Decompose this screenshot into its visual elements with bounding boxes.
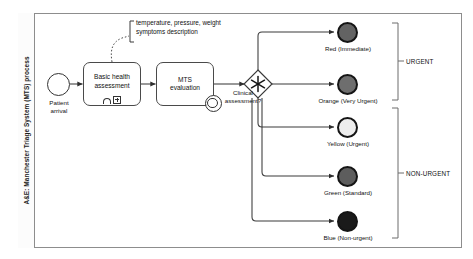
end-event-green-label: Green (Standard) — [303, 189, 393, 197]
end-event-blue-label: Blue (Non-urgent) — [302, 234, 394, 242]
task-label-line1: Basic health — [94, 73, 130, 82]
gateway-label-line2: assessment? — [213, 97, 273, 105]
end-event-orange[interactable] — [337, 74, 358, 95]
start-event-label: Patient arrival — [34, 99, 84, 115]
end-event-orange-label: Orange (Very Urgent) — [300, 97, 396, 105]
task-label-line2: assessment — [94, 82, 130, 91]
group-label-non-urgent: NON-URGENT — [406, 170, 450, 177]
annotation-line2: symptoms description — [136, 27, 221, 36]
end-event-blue[interactable] — [337, 211, 358, 232]
task-mts-evaluation-label: MTS evaluation — [170, 76, 200, 93]
start-event-label-line1: Patient — [34, 99, 84, 107]
pool-lane-label: A&E: Manchester Triage System (MTS) proc… — [18, 13, 35, 248]
text-annotation: temperature, pressure, weight symptoms d… — [136, 18, 221, 36]
task-basic-health-assessment-label: Basic health assessment — [94, 73, 130, 95]
manual-task-icon — [103, 98, 111, 104]
annotation-line1: temperature, pressure, weight — [136, 18, 221, 27]
end-event-green[interactable] — [337, 166, 358, 187]
end-event-yellow-label: Yellow (Urgent) — [305, 140, 391, 148]
start-event-patient-arrival[interactable] — [47, 73, 70, 96]
task-basic-health-assessment[interactable]: Basic health assessment — [83, 62, 141, 106]
end-event-red-label: Red (Immediate) — [307, 45, 389, 53]
end-event-red[interactable] — [337, 22, 358, 43]
end-event-yellow[interactable] — [337, 117, 358, 138]
start-event-label-line2: arrival — [34, 107, 84, 115]
task-marker-group — [84, 96, 140, 104]
group-label-urgent: URGENT — [406, 58, 434, 65]
gateway-label: Clinical assessment? — [213, 89, 273, 105]
gateway-label-line1: Clinical — [213, 89, 273, 97]
task-label-line1: MTS — [170, 76, 200, 85]
task-label-line2: evaluation — [170, 84, 200, 93]
process-pool — [18, 13, 462, 248]
diagram-canvas: A&E: Manchester Triage System (MTS) proc… — [0, 0, 473, 259]
subprocess-plus-icon[interactable] — [113, 96, 121, 104]
